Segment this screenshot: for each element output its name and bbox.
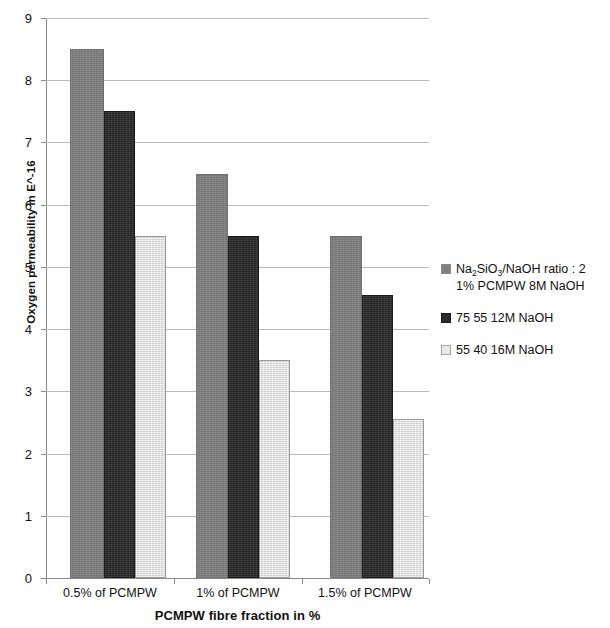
legend-label-series0-line2: 1% PCMPW 8M NaOH [456,278,609,294]
chart-legend: Na2SiO3/NaOH ratio : 2 1% PCMPW 8M NaOH … [441,262,609,375]
legend-swatch-icon-series2 [441,345,451,355]
x-tick-mark [46,579,53,584]
bar-group2-series0 [330,236,362,578]
bar-group1-series0 [196,174,228,578]
y-tick-label: 3 [0,385,32,398]
y-tick-label: 1 [0,510,32,523]
legend-label-series0: Na2SiO3/NaOH ratio : 2 [456,262,609,278]
y-axis-title: Oxygen permeability in E^-16 [25,142,37,342]
legend-entry-series1: 75 55 12M NaOH [441,311,609,326]
x-tick-mark [429,579,436,584]
x-tick-mark [302,579,309,584]
x-category-label-2: 1.5% of PCMPW [300,586,430,600]
y-tick-label: 8 [0,74,32,87]
x-category-label-0: 0.5% of PCMPW [46,586,174,600]
bar-group0-series0 [70,49,104,578]
gridline-9 [46,18,429,19]
plot-area [46,18,429,578]
bar-group2-series2 [393,419,424,578]
legend-swatch-icon-series1 [441,313,451,323]
y-tick-label: 9 [0,12,32,25]
bar-group0-series2 [135,236,166,578]
legend-entry-series2: 55 40 16M NaOH [441,343,609,358]
bar-group1-series2 [259,360,290,578]
legend-swatch-icon-series0 [441,264,451,274]
legend-label-series1: 75 55 12M NaOH [456,311,609,326]
bar-chart: 9 8 7 6 5 4 3 2 1 0 [0,0,610,628]
bar-group2-series1 [362,295,393,578]
y-tick-label: 2 [0,448,32,461]
x-axis-title: PCMPW fibre fraction in % [46,608,429,623]
x-category-label-1: 1% of PCMPW [174,586,302,600]
legend-entry-series0: Na2SiO3/NaOH ratio : 2 1% PCMPW 8M NaOH [441,262,609,294]
legend-label-series2: 55 40 16M NaOH [456,343,609,358]
x-tick-mark [174,579,181,584]
gridline-0-baseline [46,578,429,579]
y-tick-label: 0 [0,572,32,585]
bar-group0-series1 [104,111,135,578]
bar-group1-series1 [228,236,259,578]
